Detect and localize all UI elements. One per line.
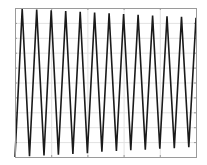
triangle-wave-chart bbox=[0, 0, 207, 165]
